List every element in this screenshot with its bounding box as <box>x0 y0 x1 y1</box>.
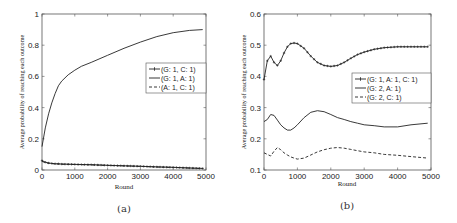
y-tick-label: 0.3 <box>250 104 262 113</box>
x-tick-label: 1000 <box>66 172 84 181</box>
x-tick-label: 4000 <box>389 172 407 181</box>
caption-a: (a) <box>117 203 131 214</box>
x-tick-label: 0 <box>262 172 267 181</box>
y-tick-label: 0.8 <box>28 41 40 50</box>
y-tick-label: 0.4 <box>28 104 40 113</box>
legend-b: (G: 1, A: 1, C: 1)(G: 2, A: 1)(G: 2, C: … <box>352 73 431 103</box>
figure: 010002000300040005000 00.20.40.60.81 Rou… <box>0 0 457 223</box>
legend-entry: (G: 2, C: 1) <box>367 94 402 102</box>
y-tick-label: 1 <box>35 10 40 19</box>
x-tick-label: 1000 <box>289 172 307 181</box>
y-tick-label: 0.5 <box>250 41 262 50</box>
y-tick-label: 0.4 <box>250 72 262 81</box>
x-tick-label: 5000 <box>422 172 440 181</box>
y-axis-label-b: Average probability of reaching each out… <box>240 35 247 150</box>
x-tick-label: 2000 <box>99 172 117 181</box>
y-tick-label: 0.6 <box>28 72 40 81</box>
y-tick-label: 0 <box>35 166 40 175</box>
caption-b: (b) <box>340 200 354 211</box>
y-tick-label: 0.6 <box>250 10 262 19</box>
x-axis-label-a: Round <box>115 183 134 191</box>
y-tick-label: 0.1 <box>250 166 262 175</box>
legend-a: (G: 1, C: 1)(G: 1, A: 1)(A: 1, C: 1) <box>146 63 206 93</box>
chart-panel-a: 010002000300040005000 00.20.40.60.81 Rou… <box>18 10 215 214</box>
x-tick-label: 0 <box>40 172 45 181</box>
x-tick-label: 3000 <box>355 172 373 181</box>
x-tick-label: 4000 <box>164 172 182 181</box>
legend-entry: (G: 1, C: 1) <box>161 66 196 74</box>
legend-entry: (A: 1, C: 1) <box>161 84 195 92</box>
legend-entry: (G: 2, A: 1) <box>367 85 401 93</box>
y-tick-label: 0.2 <box>250 135 262 144</box>
x-axis-label-b: Round <box>338 180 357 188</box>
legend-entry: (G: 1, A: 1) <box>161 75 195 83</box>
y-tick-label: 0.2 <box>28 135 40 144</box>
x-tick-label: 3000 <box>132 172 150 181</box>
chart-panel-b: 010002000300040005000 0.10.20.30.40.50.6… <box>240 10 440 211</box>
legend-entry: (G: 1, A: 1, C: 1) <box>367 76 418 84</box>
x-tick-label: 5000 <box>197 172 215 181</box>
y-axis-label-a: Average probability of reaching each out… <box>18 35 25 150</box>
